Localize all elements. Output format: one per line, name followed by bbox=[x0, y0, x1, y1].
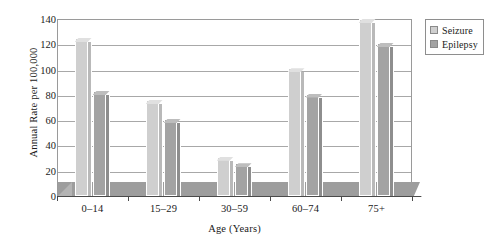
bar-side-face bbox=[88, 42, 92, 196]
x-tick-label: 0–14 bbox=[58, 203, 128, 214]
bar-side-face bbox=[248, 167, 252, 196]
x-tick-mark bbox=[199, 196, 200, 201]
bar-epilepsy-3[interactable] bbox=[306, 94, 323, 196]
y-tick-label: 80 bbox=[22, 89, 56, 100]
x-tick-label: 60–74 bbox=[271, 203, 341, 214]
y-tick-label: 120 bbox=[22, 39, 56, 50]
y-tick-label: 0 bbox=[22, 191, 56, 202]
seizure-swatch bbox=[430, 26, 438, 34]
bar-epilepsy-0[interactable] bbox=[93, 91, 110, 196]
bar-side-face bbox=[372, 23, 376, 196]
bar-front-face bbox=[93, 91, 106, 196]
bar-front-face bbox=[164, 119, 177, 196]
bar-front-face bbox=[217, 157, 230, 196]
y-tick-label: 20 bbox=[22, 165, 56, 176]
x-tick-mark bbox=[412, 196, 413, 201]
bar-side-face bbox=[230, 161, 234, 196]
bar-group bbox=[128, 19, 199, 196]
bar-seizure-4[interactable] bbox=[359, 19, 376, 196]
x-tick-label: 15–29 bbox=[129, 203, 199, 214]
y-tick-label: 140 bbox=[22, 14, 56, 25]
x-tick-mark bbox=[341, 196, 342, 201]
legend-label: Epilepsy bbox=[442, 39, 478, 50]
bar-front-face bbox=[377, 43, 390, 196]
bar-side-face bbox=[106, 95, 110, 196]
bar-epilepsy-2[interactable] bbox=[235, 163, 252, 196]
x-tick-mark bbox=[128, 196, 129, 201]
x-tick-mark bbox=[270, 196, 271, 201]
legend: SeizureEpilepsy bbox=[425, 19, 484, 55]
y-tick-label: 60 bbox=[22, 115, 56, 126]
bar-group bbox=[270, 19, 341, 196]
bar-seizure-3[interactable] bbox=[288, 68, 305, 196]
bar-side-face bbox=[301, 72, 305, 196]
bar-group bbox=[57, 19, 128, 196]
bar-epilepsy-4[interactable] bbox=[377, 43, 394, 196]
y-tick-label: 40 bbox=[22, 140, 56, 151]
bar-side-face bbox=[319, 98, 323, 196]
legend-item-seizure[interactable]: Seizure bbox=[430, 23, 478, 37]
bar-group bbox=[199, 19, 270, 196]
bar-front-face bbox=[306, 94, 319, 196]
bar-seizure-1[interactable] bbox=[146, 100, 163, 196]
y-tick-label: 100 bbox=[22, 64, 56, 75]
legend-item-epilepsy[interactable]: Epilepsy bbox=[430, 37, 478, 51]
bar-front-face bbox=[146, 100, 159, 196]
bar-side-face bbox=[177, 123, 181, 196]
bar-side-face bbox=[159, 104, 163, 196]
bar-side-face bbox=[390, 47, 394, 196]
legend-label: Seizure bbox=[442, 25, 473, 36]
bar-front-face bbox=[359, 19, 372, 196]
bar-epilepsy-1[interactable] bbox=[164, 119, 181, 196]
x-axis-line bbox=[57, 196, 413, 197]
bar-front-face bbox=[288, 68, 301, 196]
bar-seizure-2[interactable] bbox=[217, 157, 234, 196]
bar-group bbox=[341, 19, 412, 196]
epilepsy-swatch bbox=[430, 40, 438, 48]
bar-seizure-0[interactable] bbox=[75, 38, 92, 196]
x-axis-title: Age (Years) bbox=[57, 223, 412, 234]
y-axis-ticks: 020406080100120140 bbox=[12, 0, 56, 250]
x-tick-mark bbox=[57, 196, 58, 201]
x-tick-label: 30–59 bbox=[200, 203, 270, 214]
bar-front-face bbox=[75, 38, 88, 196]
bars-layer bbox=[57, 19, 412, 196]
x-tick-label: 75+ bbox=[342, 203, 412, 214]
bar-chart: Annual Rate per 100,000 0204060801001201… bbox=[0, 0, 497, 250]
bar-front-face bbox=[235, 163, 248, 196]
